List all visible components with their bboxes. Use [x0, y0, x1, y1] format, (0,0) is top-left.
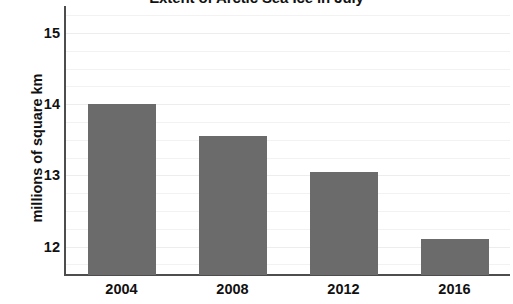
- y-axis-tick-label: 14: [26, 97, 60, 111]
- y-axis-tick-label: 15: [26, 26, 60, 40]
- bar[interactable]: [421, 239, 489, 275]
- y-axis-tick-labels: 12131415: [22, 0, 60, 304]
- y-axis-tick-label: 12: [26, 240, 60, 254]
- x-axis-tick-label: 2012: [294, 281, 394, 297]
- x-axis-tick-label: 2004: [72, 281, 172, 297]
- bar[interactable]: [88, 104, 156, 275]
- bars-layer: [66, 8, 510, 275]
- x-axis-tick-label: 2016: [405, 281, 505, 297]
- x-axis-tick-label: 2008: [183, 281, 283, 297]
- y-axis-tick-label: 13: [26, 168, 60, 182]
- chart-title: Extent of Arctic Sea Ice in July: [0, 0, 513, 7]
- bar-chart: Extent of Arctic Sea Ice in July million…: [0, 0, 513, 304]
- bar[interactable]: [199, 136, 267, 275]
- bar[interactable]: [310, 172, 378, 275]
